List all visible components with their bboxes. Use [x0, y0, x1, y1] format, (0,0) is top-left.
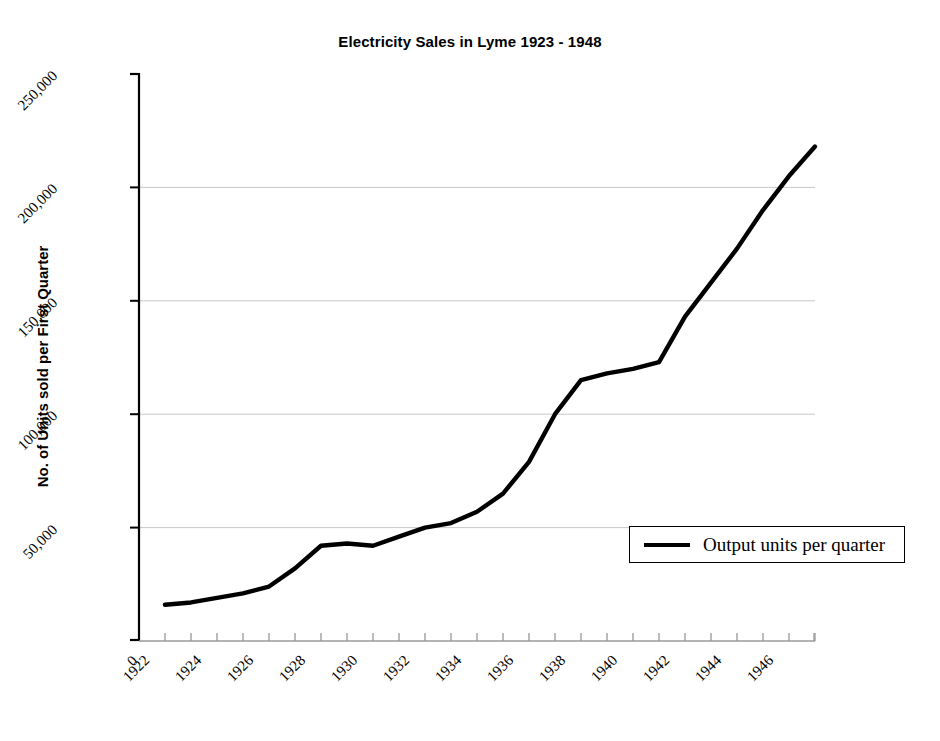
x-axis-ticks: [139, 633, 815, 641]
gridlines: [139, 187, 815, 527]
y-axis-ticks: [130, 74, 139, 528]
legend: Output units per quarter: [629, 526, 905, 563]
legend-label: Output units per quarter: [703, 535, 885, 554]
legend-line-swatch: [644, 543, 690, 547]
chart-container: Electricity Sales in Lyme 1923 - 1948 No…: [0, 0, 940, 741]
plot-area: [0, 0, 940, 741]
